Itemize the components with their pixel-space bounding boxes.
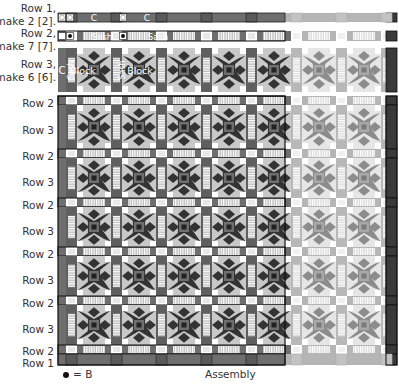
svg-text:C: C	[144, 13, 150, 23]
svg-text:C: C	[91, 13, 97, 23]
quilt-assembly-diagram: CCSashSashCBlockBlockSashSash	[0, 0, 399, 384]
svg-text:Sash: Sash	[67, 60, 76, 79]
svg-text:C: C	[59, 65, 66, 76]
svg-text:Sash: Sash	[148, 32, 168, 42]
legend-text: = B	[73, 368, 92, 380]
legend: = B	[63, 368, 92, 380]
svg-text:Sash: Sash	[118, 60, 127, 79]
component-rows	[58, 13, 397, 92]
svg-text:Block: Block	[127, 65, 153, 76]
assembly-caption: Assembly	[205, 368, 256, 380]
assembly	[58, 96, 397, 365]
b-dot-icon	[63, 372, 69, 378]
svg-text:Sash: Sash	[92, 32, 112, 42]
